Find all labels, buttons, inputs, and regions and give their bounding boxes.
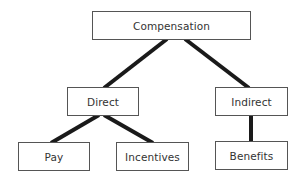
node-label: Compensation [133, 20, 210, 32]
edge-direct-incentives [104, 115, 153, 143]
node-incentives: Incentives [116, 142, 189, 171]
node-label: Benefits [230, 150, 274, 162]
node-compensation: Compensation [92, 11, 251, 40]
edge-compensation-direct [104, 39, 167, 88]
edge-direct-pay [51, 115, 99, 143]
node-benefits: Benefits [215, 141, 288, 170]
edge-compensation-indirect [185, 39, 249, 88]
node-label: Incentives [125, 151, 180, 163]
node-label: Indirect [231, 96, 272, 108]
node-label: Direct [87, 96, 119, 108]
node-label: Pay [45, 151, 64, 163]
node-direct: Direct [67, 87, 139, 116]
node-indirect: Indirect [215, 87, 288, 116]
node-pay: Pay [18, 142, 90, 171]
